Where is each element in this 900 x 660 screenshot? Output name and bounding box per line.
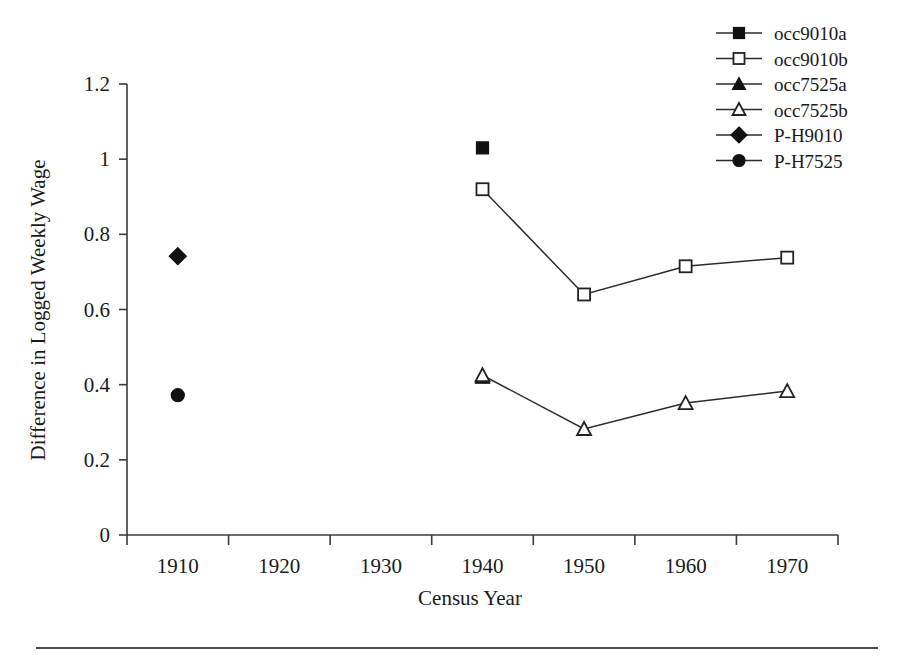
data-point-filled-square — [733, 27, 744, 38]
open-triangle-marker — [780, 384, 794, 397]
x-tick-label: 1970 — [766, 554, 808, 578]
legend-label: P-H7525 — [774, 151, 843, 172]
filled-diamond-marker — [169, 248, 186, 265]
chart-canvas: 00.20.40.60.811.2 1910192019301940195019… — [0, 0, 900, 660]
filled-circle-marker — [733, 154, 745, 166]
filled-diamond-marker — [731, 127, 747, 143]
y-tick-label: 1.2 — [84, 72, 110, 96]
y-axis-ticks: 00.20.40.60.811.2 — [84, 72, 127, 547]
data-point-open-square — [781, 252, 793, 264]
data-point-open-square — [477, 183, 489, 195]
legend-label: occ7525a — [774, 74, 847, 95]
data-point-open-square — [733, 53, 744, 64]
y-tick-label: 0.6 — [84, 298, 110, 322]
data-point-filled-square — [477, 142, 489, 154]
data-point-open-triangle — [476, 368, 490, 381]
open-square-marker — [733, 53, 744, 64]
x-tick-label: 1930 — [360, 554, 402, 578]
legend-item-occ9010b[interactable]: occ9010b — [716, 49, 848, 70]
x-tick-label: 1910 — [157, 554, 199, 578]
x-tick-label: 1960 — [665, 554, 707, 578]
x-axis-ticks: 1910192019301940195019601970 — [127, 535, 838, 578]
y-tick-label: 0 — [100, 523, 111, 547]
y-axis-title: Difference in Logged Weekly Wage — [26, 159, 50, 460]
data-point-open-square — [680, 260, 692, 272]
legend-label: occ7525b — [774, 100, 848, 121]
y-tick-label: 1 — [100, 147, 111, 171]
y-tick-label: 0.4 — [84, 373, 111, 397]
y-tick-label: 0.2 — [84, 448, 110, 472]
x-tick-label: 1950 — [563, 554, 605, 578]
x-axis-title: Census Year — [418, 586, 522, 610]
data-point-filled-circle — [171, 389, 184, 402]
open-square-marker — [477, 183, 489, 195]
series-occ7525b — [476, 368, 795, 435]
legend-item-P-H7525[interactable]: P-H7525 — [716, 151, 843, 172]
series-P-H7525 — [171, 389, 184, 402]
data-point-open-triangle — [780, 384, 794, 397]
legend-label: occ9010a — [774, 23, 847, 44]
series-occ9010b — [477, 183, 794, 300]
legend-label: occ9010b — [774, 49, 848, 70]
data-point-filled-diamond — [169, 248, 186, 265]
legend-item-occ7525a[interactable]: occ7525a — [716, 74, 847, 95]
x-tick-label: 1920 — [258, 554, 300, 578]
open-square-marker — [680, 260, 692, 272]
open-square-marker — [781, 252, 793, 264]
data-series-layer — [169, 142, 794, 435]
filled-circle-marker — [171, 389, 184, 402]
open-square-marker — [578, 288, 590, 300]
data-point-open-square — [578, 288, 590, 300]
x-tick-label: 1940 — [462, 554, 504, 578]
legend: occ9010aocc9010bocc7525aocc7525bP-H9010P… — [716, 23, 848, 172]
data-point-filled-circle — [733, 154, 745, 166]
y-tick-label: 0.8 — [84, 222, 110, 246]
data-point-filled-diamond — [731, 127, 747, 143]
legend-item-occ9010a[interactable]: occ9010a — [716, 23, 847, 44]
series-occ9010a — [477, 142, 489, 154]
legend-item-occ7525b[interactable]: occ7525b — [716, 100, 848, 121]
filled-square-marker — [477, 142, 489, 154]
open-triangle-marker — [476, 368, 490, 381]
legend-item-P-H9010[interactable]: P-H9010 — [716, 125, 843, 146]
series-line-occ9010b — [483, 189, 788, 294]
series-line-occ7525b — [483, 375, 788, 429]
figure-container: 00.20.40.60.811.2 1910192019301940195019… — [0, 0, 900, 660]
series-P-H9010 — [169, 248, 186, 265]
filled-square-marker — [733, 27, 744, 38]
legend-label: P-H9010 — [774, 125, 843, 146]
